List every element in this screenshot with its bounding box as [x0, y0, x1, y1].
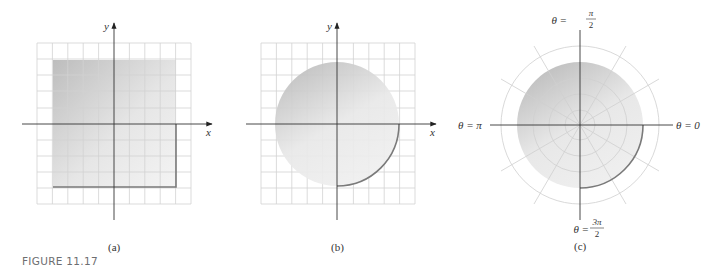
label-theta-pi-over-2: θ = π 2	[551, 8, 596, 30]
panel-c: θ = π 2 θ = 0 θ = π θ = 3π 2 (c)	[458, 8, 700, 253]
shaded-square-region	[53, 60, 176, 187]
panel-a: x y (a)	[22, 20, 212, 254]
x-axis-label-b: x	[429, 126, 435, 138]
caption-c: (c)	[574, 240, 587, 253]
panel-b: x y (b)	[246, 20, 436, 254]
figure-canvas: x y (a) x y (b)	[0, 0, 724, 280]
figure-label: FIGURE 11.17	[22, 255, 98, 267]
y-axis-label-a: y	[103, 20, 109, 32]
svg-text:θ =: θ =	[551, 14, 567, 26]
label-theta-0: θ = 0	[676, 119, 700, 131]
label-theta-3pi-over-2: θ = 3π 2	[573, 217, 604, 239]
label-theta-pi: θ = π	[458, 119, 482, 131]
caption-a: (a)	[108, 241, 121, 254]
svg-text:3π: 3π	[591, 217, 602, 227]
x-axis-label-a: x	[205, 126, 211, 138]
svg-text:π: π	[589, 8, 594, 18]
svg-text:θ =: θ =	[573, 223, 589, 235]
svg-text:2: 2	[595, 229, 600, 239]
caption-b: (b)	[331, 241, 344, 254]
svg-text:2: 2	[589, 20, 594, 30]
y-axis-label-b: y	[326, 20, 332, 32]
